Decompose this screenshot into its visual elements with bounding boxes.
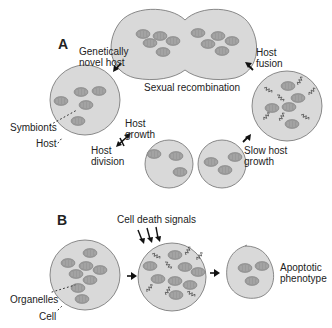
- arrow-right-2-icon: [210, 269, 220, 277]
- cell-death-signal-arrows-icon: [138, 227, 161, 244]
- daughter-cell-left: [145, 140, 193, 188]
- novel-host-cell: [50, 65, 120, 135]
- apoptotic-cell: [227, 245, 274, 298]
- organelles-label: Organelles: [10, 294, 58, 305]
- arrow-right-1-icon: [127, 272, 137, 280]
- cell-death-signals-label: Cell death signals: [117, 214, 196, 225]
- host-fusion-label: Host fusion: [256, 47, 283, 69]
- panel-b-letter: B: [57, 212, 67, 228]
- slow-growth-host-cell: [252, 71, 322, 141]
- cell-label: Cell: [39, 311, 56, 322]
- panel-a-letter: A: [58, 36, 68, 52]
- healthy-cell: [50, 240, 120, 310]
- host-pointer: [58, 138, 62, 143]
- daughter-cell-right: [198, 140, 246, 188]
- slow-host-growth-label: Slow host growth: [244, 145, 287, 167]
- arrow-slow-growth-icon: [243, 134, 251, 142]
- symbionts-label: Symbionts: [10, 122, 57, 133]
- signalled-cell: [138, 243, 206, 311]
- fused-host-cell: [111, 9, 257, 79]
- cell-pointer: [58, 306, 62, 310]
- host-label: Host: [36, 138, 57, 149]
- host-growth-label: Host growth: [125, 118, 155, 140]
- sexual-recombination-label: Sexual recombination: [144, 82, 240, 93]
- genetically-novel-host-label: Genetically novel host: [79, 46, 128, 68]
- host-division-label: Host division: [91, 145, 124, 167]
- apoptotic-phenotype-label: Apoptotic phenotype: [280, 262, 327, 284]
